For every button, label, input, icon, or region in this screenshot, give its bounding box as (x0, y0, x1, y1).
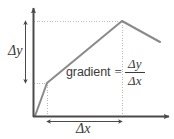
delta-y-text: Δy (8, 43, 22, 58)
gradient-word: gradient (66, 65, 110, 79)
gradient-diagram: Δy Δx gradient = Δy Δx (0, 0, 174, 139)
delta-y-label: Δy (8, 44, 22, 58)
equals-sign: = (114, 64, 121, 80)
gradient-equation: gradient = Δy Δx (66, 57, 145, 87)
delta-fraction: Δy Δx (125, 57, 145, 87)
fraction-numerator: Δy (127, 57, 142, 72)
delta-x-label: Δx (76, 122, 90, 136)
fraction-denominator: Δx (127, 73, 142, 88)
delta-x-text: Δx (76, 121, 90, 136)
